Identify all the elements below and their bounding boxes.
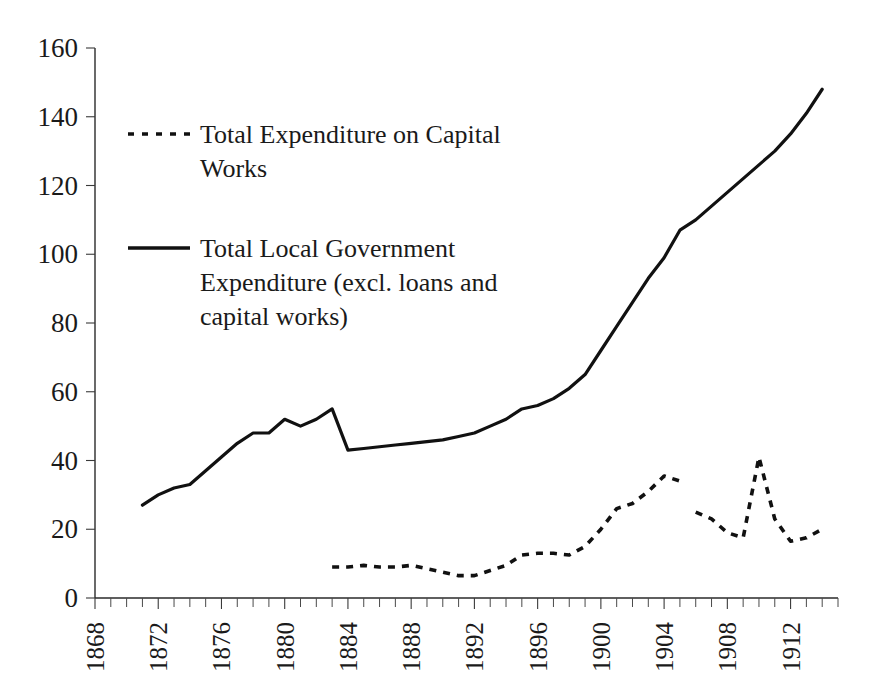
x-tick-label: 1908: [714, 622, 741, 672]
legend-label-2: Expenditure (excl. loans and: [200, 268, 497, 297]
series-line-2: [696, 457, 822, 541]
x-tick-label: 1892: [461, 622, 488, 672]
x-tick-label: 1900: [588, 622, 615, 672]
x-tick-label: 1884: [335, 622, 362, 673]
x-tick-label: 1896: [525, 622, 552, 672]
x-tick-label: 1872: [145, 622, 172, 672]
x-tick-group: [95, 598, 838, 609]
y-tick-label: 100: [38, 239, 79, 269]
chart-container: 020406080100120140160 186818721876188018…: [0, 0, 880, 696]
x-axis: 1868187218761880188418881892189619001904…: [82, 598, 838, 672]
x-tick-label: 1880: [272, 622, 299, 672]
x-tick-label-group: 1868187218761880188418881892189619001904…: [82, 622, 805, 673]
y-tick-label: 80: [51, 308, 78, 338]
y-tick-group: [86, 48, 95, 598]
legend-label-1: Works: [200, 154, 267, 183]
y-tick-label: 0: [65, 583, 79, 613]
y-tick-label: 140: [38, 102, 79, 132]
legend-label-2: capital works): [200, 302, 348, 331]
x-tick-label: 1876: [208, 622, 235, 672]
series-line-3: [142, 89, 822, 505]
y-axis: 020406080100120140160: [38, 33, 96, 613]
x-tick-label: 1904: [651, 622, 678, 673]
y-tick-label: 40: [51, 446, 78, 476]
legend-label-2: Total Local Government: [200, 234, 456, 263]
chart-legend: Total Expenditure on CapitalWorksTotal L…: [128, 120, 501, 331]
y-tick-label: 120: [38, 171, 79, 201]
y-tick-label: 20: [51, 514, 78, 544]
x-tick-label: 1912: [778, 622, 805, 672]
legend-label-1: Total Expenditure on Capital: [200, 120, 501, 149]
series-line-1: [332, 476, 680, 576]
y-tick-label: 60: [51, 377, 78, 407]
expenditure-line-chart: 020406080100120140160 186818721876188018…: [0, 0, 880, 696]
x-tick-label: 1888: [398, 622, 425, 672]
x-tick-label: 1868: [82, 622, 109, 672]
y-tick-label: 160: [38, 33, 79, 63]
y-tick-label-group: 020406080100120140160: [38, 33, 79, 613]
